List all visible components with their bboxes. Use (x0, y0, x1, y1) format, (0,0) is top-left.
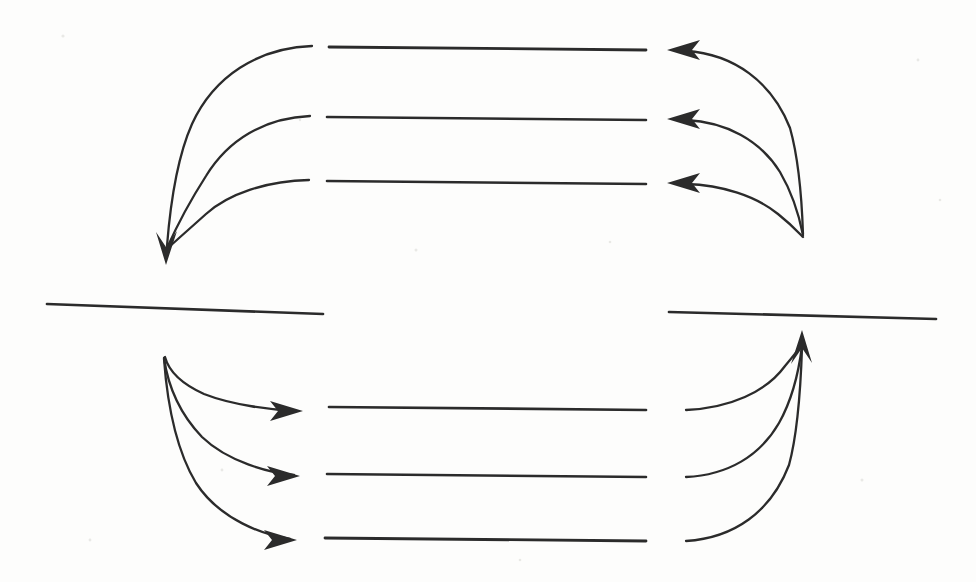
upper-left-down-arrow-icon (156, 231, 177, 265)
middle-separators (47, 304, 936, 319)
lower-left-curve-3 (164, 359, 290, 539)
upper-right-curve-2 (686, 120, 803, 235)
lower-left-arrow-3-icon (264, 530, 297, 550)
lower-line-1 (329, 407, 646, 410)
upper-left-curve-1 (167, 46, 312, 246)
upper-right-arrow-1-icon (667, 40, 700, 60)
upper-right-arrow-2-icon (667, 109, 700, 129)
lower-right-curve-3 (686, 348, 802, 541)
separator-left (47, 304, 323, 314)
lower-left-arrow-1-icon (270, 401, 303, 421)
figure-canvas (0, 0, 976, 582)
lower-line-2 (327, 474, 646, 477)
upper-line-1 (329, 47, 646, 50)
upper-right-curve-3 (686, 184, 803, 237)
upper-right-arrow-3-icon (667, 173, 700, 193)
field-line-diagram (0, 0, 976, 582)
lower-line-3 (325, 538, 646, 541)
upper-group (156, 40, 803, 265)
upper-line-2 (327, 117, 646, 120)
separator-right (669, 312, 936, 319)
lower-right-curve-1 (686, 344, 802, 410)
upper-left-curve-3 (166, 180, 309, 250)
lower-left-curve-1 (165, 357, 296, 411)
lower-left-arrow-2-icon (267, 466, 300, 486)
lower-group (164, 330, 812, 550)
upper-right-curve-1 (686, 51, 803, 234)
paper-texture (61, 34, 941, 561)
upper-line-3 (327, 181, 646, 184)
